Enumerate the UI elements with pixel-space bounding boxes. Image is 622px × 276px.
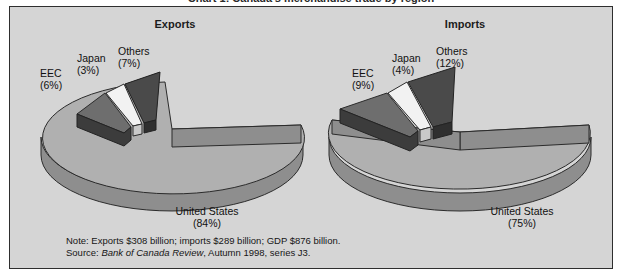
label-exports-us-pct: (84%) xyxy=(152,217,262,229)
label-exports-others-pct: (7%) xyxy=(118,57,150,69)
footnote-note-prefix: Note: xyxy=(66,235,91,246)
chart-panel: Exports Imports xyxy=(9,6,613,269)
label-exports-eec-pct: (6%) xyxy=(40,79,62,91)
label-imports-us-name: United States xyxy=(490,205,553,217)
pie-chart-exports xyxy=(20,37,315,212)
label-exports-others-name: Others xyxy=(118,45,150,57)
label-exports-eec-name: EEC xyxy=(40,67,62,79)
label-exports-united-states: United States (84%) xyxy=(152,205,262,229)
label-imports-united-states: United States (75%) xyxy=(462,205,582,229)
chart-title-exports: Exports xyxy=(40,18,310,30)
footnote-source: Source: Bank of Canada Review, Autumn 19… xyxy=(66,247,340,259)
label-exports-japan: Japan (3%) xyxy=(77,52,106,76)
label-imports-eec-name: EEC xyxy=(352,67,374,79)
label-imports-japan-pct: (4%) xyxy=(392,64,421,76)
label-imports-others: Others (12%) xyxy=(436,45,468,69)
label-exports-others: Others (7%) xyxy=(118,45,150,69)
label-imports-japan-name: Japan xyxy=(392,52,421,64)
label-imports-eec-pct: (9%) xyxy=(352,79,374,91)
label-exports-eec: EEC (6%) xyxy=(40,67,62,91)
chart-title-imports: Imports xyxy=(330,18,600,30)
footnote-source-rest: , Autumn 1998, series J3. xyxy=(203,247,310,258)
label-imports-eec: EEC (9%) xyxy=(352,67,374,91)
footnote-note-text: Exports $308 billion; imports $289 billi… xyxy=(91,235,340,246)
label-exports-us-name: United States xyxy=(175,205,238,217)
figure-root: Chart 1: Canada's merchandise trade by r… xyxy=(0,0,622,276)
footnote-source-prefix: Source: xyxy=(66,247,101,258)
cut-off-heading: Chart 1: Canada's merchandise trade by r… xyxy=(0,0,622,5)
label-imports-others-name: Others xyxy=(436,45,468,57)
footnote-source-publication: Bank of Canada Review xyxy=(101,247,203,258)
footnote-note: Note: Exports $308 billion; imports $289… xyxy=(66,235,340,247)
label-imports-us-pct: (75%) xyxy=(462,217,582,229)
label-imports-others-pct: (12%) xyxy=(436,57,468,69)
footnotes: Note: Exports $308 billion; imports $289… xyxy=(66,235,340,258)
label-exports-japan-name: Japan xyxy=(77,52,106,64)
label-imports-japan: Japan (4%) xyxy=(392,52,421,76)
label-exports-japan-pct: (3%) xyxy=(77,64,106,76)
slice-exports-united-states xyxy=(41,82,305,211)
